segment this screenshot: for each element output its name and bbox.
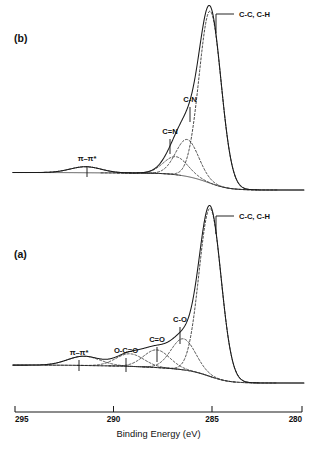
x-axis-tick-label-290: 290 [107,415,121,424]
panel-b-leader-c-c-c-h [216,14,234,33]
panel-b: (b)π–π*C=NC-NC-C, C-H [13,5,304,190]
panel-b-envelope-curve [13,5,304,190]
panel-a-peak-label-pi-pi-star: π–π* [70,348,89,357]
x-axis-tick-label-285: 285 [205,415,219,424]
panel-a-peak-label-c-c-c-h: C-C, C-H [239,212,270,221]
panel-a: (a)π–π*O-C=OC=OC-OC-C, C-H [13,205,304,383]
x-axis-tick-label-280: 280 [289,415,303,424]
xps-spectrum-figure: (b)π–π*C=NC-NC-C, C-H(a)π–π*O-C=OC=OC-OC… [0,0,320,456]
spectrum-svg: (b)π–π*C=NC-NC-C, C-H(a)π–π*O-C=OC=OC-OC… [0,0,320,456]
x-axis-title: Binding Energy (eV) [116,429,200,439]
x-axis-tick-label-295: 295 [15,415,29,424]
panel-a-peak-label-c-double-o: C=O [149,335,165,344]
panel-b-peak-label-c-n: C-N [183,95,196,104]
panel-b-label: (b) [14,32,27,44]
panel-b-peak-label-pi-pi-star: π–π* [78,154,97,163]
panel-b-peak-label-c-c-c-h: C-C, C-H [239,10,270,19]
panel-a-label: (a) [14,248,27,260]
panel-a-peak-label-c-o: C-O [173,315,187,324]
panel-a-peak-label-o-c-double-o: O-C=O [114,346,138,355]
panel-a-component-2 [45,354,214,378]
panel-a-envelope-curve [13,205,304,383]
panel-a-component-5 [143,208,277,383]
panel-a-leader-c-c-c-h [216,216,234,234]
panel-b-peak-label-c-double-n: C=N [162,127,177,136]
x-axis: 295290285280Binding Energy (eV) [15,406,303,439]
panel-b-background-curve [13,173,304,190]
